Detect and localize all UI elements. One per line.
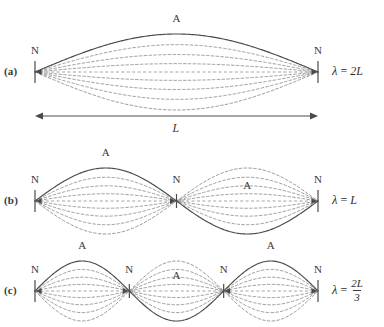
wave-dashed-a-3-down — [35, 72, 318, 80]
panel-label-b: (b) — [4, 194, 18, 206]
wave-panel-a — [35, 34, 318, 110]
node-label-b-2: N — [311, 173, 325, 185]
panel-label-a: (a) — [4, 65, 17, 77]
lambda-symbol-b: λ — [332, 193, 337, 208]
wavelength-fraction-c: 2L3 — [350, 278, 364, 303]
lambda-symbol-a: λ — [332, 64, 337, 79]
wavelength-value-a: 2L — [350, 64, 363, 79]
wave-solid-a — [35, 34, 318, 72]
antinode-label-b-1: A — [240, 179, 254, 191]
equals-sign-a: = — [339, 64, 348, 79]
antinode-label-c-2: A — [264, 239, 278, 251]
node-label-c-3: N — [311, 263, 325, 275]
wave-envelope-mirror-a — [35, 72, 318, 110]
length-dimension — [35, 112, 318, 119]
antinode-label-c-1: A — [170, 269, 184, 281]
standing-wave-figure — [0, 0, 384, 327]
lambda-symbol-c: λ — [332, 283, 337, 298]
fraction-denominator-c: 3 — [353, 290, 361, 303]
antinode-label-c-0: A — [75, 239, 89, 251]
antinode-label-b-0: A — [99, 146, 113, 158]
wave-dashed-a-3-up — [35, 64, 318, 72]
node-label-a-1: N — [311, 44, 325, 56]
node-label-b-0: N — [28, 173, 42, 185]
wavelength-equation-a: λ=2L — [332, 64, 363, 79]
node-label-c-0: N — [28, 263, 42, 275]
length-arrow-left — [35, 112, 43, 119]
node-label-c-1: N — [122, 263, 136, 275]
wavelength-value-b: L — [350, 193, 357, 208]
node-label-b-1: N — [170, 173, 184, 185]
wavelength-equation-c: λ=2L3 — [332, 278, 364, 303]
equals-sign-b: = — [339, 193, 348, 208]
length-arrow-right — [310, 112, 318, 119]
fraction-numerator-c: 2L — [350, 278, 364, 290]
length-label: L — [173, 121, 180, 136]
panel-label-c: (c) — [4, 284, 17, 296]
wavelength-equation-b: λ=L — [332, 193, 357, 208]
node-label-a-0: N — [28, 44, 42, 56]
equals-sign-c: = — [339, 283, 348, 298]
antinode-label-a-0: A — [170, 12, 184, 24]
figure-caption — [40, 316, 370, 327]
node-label-c-2: N — [217, 263, 231, 275]
